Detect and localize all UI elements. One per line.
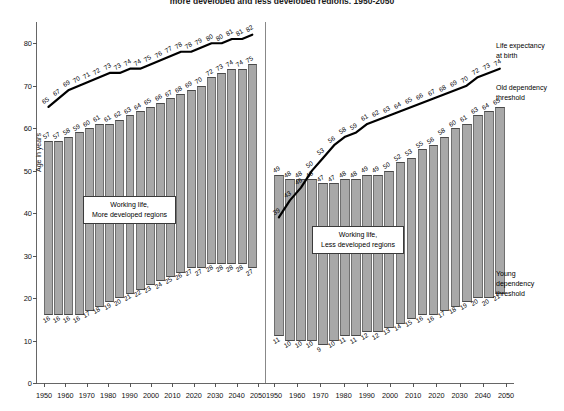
working-life-bar bbox=[418, 149, 428, 315]
x-tick-label: 2030 bbox=[451, 391, 467, 400]
bar-bottom-value-label: 14 bbox=[393, 322, 403, 332]
bar-top-value-label: 55 bbox=[415, 139, 425, 149]
bar-top-value-label: 48 bbox=[348, 169, 358, 179]
bar-top-value-label: 72 bbox=[204, 67, 214, 77]
bar-top-value-label: 49 bbox=[271, 165, 281, 175]
x-tick-label: 1950 bbox=[36, 391, 52, 400]
x-tick-mark bbox=[367, 383, 368, 387]
working-life-bar bbox=[285, 179, 295, 340]
x-tick-label: 1990 bbox=[359, 391, 375, 400]
bar-bottom-value-label: 18 bbox=[448, 305, 458, 315]
life-expectancy-value-label: 80 bbox=[204, 32, 214, 42]
bar-top-value-label: 61 bbox=[102, 114, 112, 124]
caption-box-more-developed: Working life, More developed regions bbox=[83, 196, 176, 224]
x-tick-label: 2030 bbox=[207, 391, 223, 400]
working-life-bar bbox=[238, 69, 247, 264]
bar-top-value-label: 52 bbox=[393, 152, 403, 162]
bar-top-value-label: 66 bbox=[153, 93, 163, 103]
life-expectancy-value-label: 65 bbox=[404, 96, 414, 106]
bar-top-value-label: 64 bbox=[481, 101, 491, 111]
bar-bottom-value-label: 28 bbox=[214, 263, 224, 273]
bar-bottom-value-label: 16 bbox=[72, 314, 82, 324]
caption-right-line2: Less developed regions bbox=[321, 240, 395, 250]
bar-top-value-label: 49 bbox=[370, 165, 380, 175]
working-life-bar bbox=[307, 179, 317, 340]
x-tick-label: 2000 bbox=[382, 391, 398, 400]
chart-page: more developed and less developed region… bbox=[0, 0, 564, 411]
bar-bottom-value-label: 20 bbox=[470, 297, 480, 307]
working-life-bar bbox=[217, 73, 226, 264]
annotation-old-dependency: Old dependency threshold bbox=[496, 83, 547, 103]
bar-bottom-value-label: 13 bbox=[381, 327, 391, 337]
x-tick-mark bbox=[460, 383, 461, 387]
bar-bottom-value-label: 11 bbox=[348, 335, 357, 344]
bar-top-value-label: 73 bbox=[214, 63, 224, 73]
life-expectancy-value-label: 74 bbox=[133, 58, 143, 68]
life-expectancy-value-label: 82 bbox=[245, 24, 255, 34]
x-tick-mark bbox=[237, 383, 238, 387]
working-life-bar bbox=[451, 128, 461, 306]
life-expectancy-value-label: 75 bbox=[143, 53, 153, 63]
life-expectancy-value-label: 70 bbox=[459, 75, 469, 85]
bar-top-value-label: 62 bbox=[112, 110, 122, 120]
bar-top-value-label: 48 bbox=[337, 169, 347, 179]
panel-divider bbox=[265, 22, 266, 383]
life-expectancy-value-label: 69 bbox=[61, 79, 71, 89]
annotation-young-dependency-line2: dependency bbox=[496, 279, 534, 289]
x-tick-mark bbox=[108, 383, 109, 387]
plot-area: Age in years 01020304050607080 195019601… bbox=[36, 22, 514, 383]
x-tick-mark bbox=[194, 383, 195, 387]
life-expectancy-value-label: 50 bbox=[305, 160, 315, 170]
annotation-young-dependency-line1: Young bbox=[496, 269, 534, 279]
working-life-bar bbox=[440, 137, 450, 311]
bar-top-value-label: 60 bbox=[448, 118, 458, 128]
working-life-bar bbox=[248, 64, 257, 268]
x-tick-label: 1970 bbox=[312, 391, 328, 400]
bar-bottom-value-label: 23 bbox=[143, 284, 153, 294]
bar-bottom-value-label: 10 bbox=[282, 339, 292, 349]
caption-left-line1: Working life, bbox=[92, 200, 167, 210]
x-tick-label: 2050 bbox=[250, 391, 266, 400]
bar-bottom-value-label: 10 bbox=[326, 339, 336, 349]
x-tick-label: 2050 bbox=[498, 391, 514, 400]
x-tick-mark bbox=[87, 383, 88, 387]
x-tick-mark bbox=[506, 383, 507, 387]
x-tick-mark bbox=[483, 383, 484, 387]
life-expectancy-value-label: 76 bbox=[153, 49, 163, 59]
y-axis-label: Age in years bbox=[35, 133, 42, 172]
y-axis-line bbox=[36, 22, 37, 383]
bar-top-value-label: 47 bbox=[326, 173, 336, 183]
bar-bottom-value-label: 11 bbox=[337, 335, 346, 344]
x-tick-label: 1960 bbox=[289, 391, 305, 400]
working-life-bar bbox=[166, 98, 175, 276]
working-life-bar bbox=[429, 145, 439, 315]
life-expectancy-value-label: 71 bbox=[82, 70, 92, 80]
x-tick-mark bbox=[151, 383, 152, 387]
life-expectancy-value-label: 72 bbox=[470, 66, 480, 76]
bar-top-value-label: 56 bbox=[426, 135, 436, 145]
x-tick-label: 2000 bbox=[143, 391, 159, 400]
bar-bottom-value-label: 16 bbox=[61, 314, 71, 324]
bar-top-value-label: 48 bbox=[304, 169, 314, 179]
working-life-bar bbox=[207, 77, 216, 264]
bar-top-value-label: 58 bbox=[61, 127, 71, 137]
working-life-bar bbox=[462, 124, 472, 302]
bar-bottom-value-label: 21 bbox=[123, 293, 133, 303]
x-tick-label: 2010 bbox=[164, 391, 180, 400]
bar-bottom-value-label: 28 bbox=[235, 263, 245, 273]
working-life-bar bbox=[296, 179, 306, 340]
bar-top-value-label: 50 bbox=[381, 161, 391, 171]
bar-top-value-label: 53 bbox=[404, 148, 414, 158]
life-expectancy-value-label: 73 bbox=[112, 62, 122, 72]
bar-top-value-label: 57 bbox=[41, 131, 51, 141]
life-expectancy-value-label: 74 bbox=[123, 58, 133, 68]
y-tick-label: 50 bbox=[12, 167, 32, 176]
x-tick-mark bbox=[413, 383, 414, 387]
annotation-old-dependency-line1: Old dependency bbox=[496, 83, 547, 93]
y-tick-label: 20 bbox=[12, 294, 32, 303]
x-tick-label: 1980 bbox=[100, 391, 116, 400]
caption-left-line2: More developed regions bbox=[92, 210, 167, 220]
annotation-life-expectancy-line1: Life expectancy bbox=[496, 41, 545, 51]
life-expectancy-value-label: 62 bbox=[371, 109, 381, 119]
bar-top-value-label: 57 bbox=[51, 131, 61, 141]
